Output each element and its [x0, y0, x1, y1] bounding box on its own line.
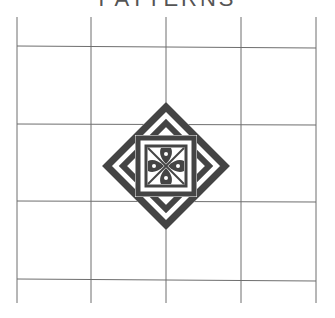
emblem: [102, 102, 230, 230]
diagram-canvas: [0, 0, 335, 318]
petal-cross-icon: [148, 148, 184, 184]
